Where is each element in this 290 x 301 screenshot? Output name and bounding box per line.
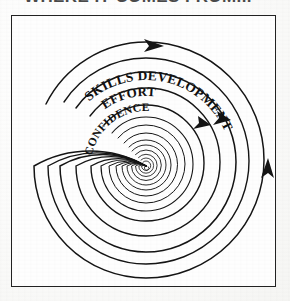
page-title: WHERE IT COMES FROM... bbox=[24, 0, 252, 7]
arrow-outer-top bbox=[144, 39, 164, 52]
page-canvas: WHERE IT COMES FROM... bbox=[0, 0, 290, 301]
spiral-ring-core bbox=[144, 166, 148, 170]
figure-frame: SKILLS DEVELOPMENT EFFORT CONFIDENCE bbox=[11, 15, 276, 287]
spiral-ring-6 bbox=[101, 117, 193, 211]
cropped-title-strip: WHERE IT COMES FROM... bbox=[0, 0, 290, 7]
arrow-outer-right bbox=[261, 158, 274, 178]
spiral-diagram: SKILLS DEVELOPMENT EFFORT CONFIDENCE bbox=[12, 16, 276, 287]
